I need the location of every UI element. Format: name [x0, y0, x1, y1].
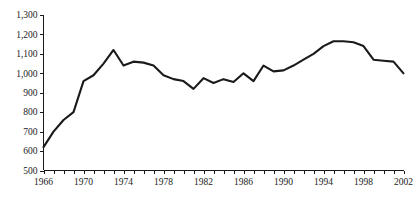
x-axis-tick-label: 1966	[34, 177, 53, 187]
y-axis-ticks	[40, 16, 44, 172]
x-axis-ticks	[45, 171, 405, 175]
x-axis-tick-label: 2002	[394, 177, 413, 187]
x-axis-tick-label: 1970	[74, 177, 93, 187]
y-axis-tick-label: 500	[23, 166, 38, 176]
x-axis-tick-label: 1990	[274, 177, 293, 187]
line-chart: 5006007008009001,0001,1001,2001,300 1966…	[0, 0, 419, 206]
y-axis-tick-label: 1,200	[16, 30, 38, 40]
x-axis-tick-labels: 1966197019741978198219861990199419982002	[34, 177, 413, 187]
y-axis-tick-label: 1,100	[16, 49, 38, 59]
x-axis-tick-label: 1994	[314, 177, 333, 187]
y-axis-tick-label: 900	[23, 88, 38, 98]
data-series-group	[44, 41, 404, 147]
x-axis-group: 1966197019741978198219861990199419982002	[34, 171, 413, 187]
x-axis-tick-label: 1998	[354, 177, 373, 187]
data-line-series-1	[44, 41, 404, 147]
x-axis-tick-label: 1974	[114, 177, 133, 187]
y-axis-group: 5006007008009001,0001,1001,2001,300	[16, 10, 43, 176]
y-axis-tick-label: 700	[23, 127, 38, 137]
chart-container: 5006007008009001,0001,1001,2001,300 1966…	[0, 0, 419, 206]
y-axis-tick-label: 800	[23, 107, 38, 117]
y-axis-tick-label: 1,000	[16, 69, 38, 79]
x-axis-tick-label: 1978	[154, 177, 173, 187]
x-axis-tick-label: 1982	[194, 177, 213, 187]
y-axis-tick-label: 600	[23, 146, 38, 156]
y-axis-tick-label: 1,300	[16, 10, 38, 20]
x-axis-tick-label: 1986	[234, 177, 253, 187]
y-axis-tick-labels: 5006007008009001,0001,1001,2001,300	[16, 10, 38, 176]
